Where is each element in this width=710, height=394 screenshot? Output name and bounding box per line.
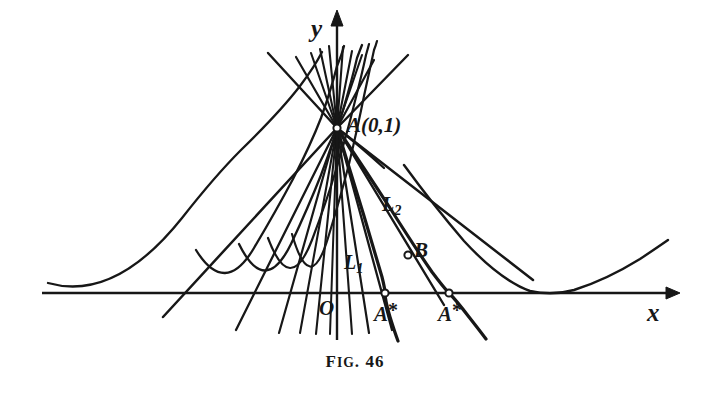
curve-label-l1-base: L: [344, 251, 356, 273]
point-a-star-2-asterisk: *: [452, 299, 462, 321]
x-axis-label: x: [647, 300, 660, 325]
curve-label-l1-subscript: 1: [356, 260, 363, 276]
point-a-star-1-base: A: [374, 302, 388, 326]
figure-caption-number: . 46: [355, 352, 385, 371]
point-b-label: B: [414, 240, 428, 261]
parabola-l2: [337, 128, 486, 339]
point-a-star-2-base: A: [438, 302, 452, 326]
point-a-label: A(0,1): [347, 115, 401, 136]
figure-caption-smallcaps: IG: [337, 355, 355, 370]
ray-up-1: [268, 53, 337, 128]
figure-drawing: [0, 0, 710, 394]
figure-container: y x A(0,1) O L1 L2 B A* A* FIG. 46: [0, 0, 710, 394]
parabola-vertex-265: [239, 45, 362, 271]
point-a-star-1-asterisk: *: [388, 299, 398, 321]
parabola-vertex-560: [404, 165, 668, 293]
point-a-star-1-label: A*: [374, 301, 398, 325]
point-a-star-1-marker: [381, 289, 388, 296]
point-a-marker: [333, 124, 340, 131]
curve-label-l2: L2: [382, 194, 401, 217]
point-a-star-2-marker: [445, 289, 452, 296]
y-axis-arrowhead: [331, 10, 343, 26]
parabola-family: [48, 41, 668, 341]
x-axis-arrowhead: [666, 287, 680, 299]
curve-label-l2-base: L: [382, 193, 394, 215]
origin-label: O: [319, 298, 334, 319]
parabola-vertex-115: [48, 52, 322, 287]
curve-label-l2-subscript: 2: [394, 202, 401, 218]
curve-label-l1: L1: [344, 252, 363, 275]
figure-caption: FIG. 46: [0, 352, 710, 372]
point-a-star-2-label: A*: [438, 301, 462, 325]
figure-caption-prefix: F: [326, 352, 337, 371]
y-axis-label: y: [311, 16, 322, 41]
point-b-marker: [404, 251, 411, 258]
